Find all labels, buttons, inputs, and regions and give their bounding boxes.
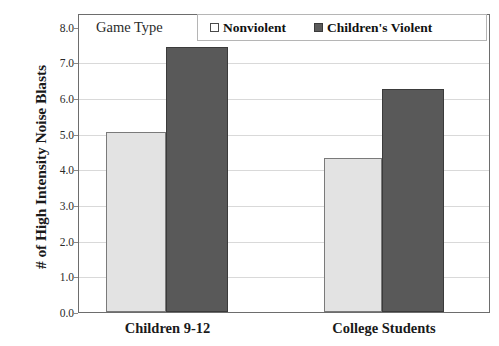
legend-label-nonviolent: Nonviolent [223,20,286,36]
bar-college-nonviolent [324,158,382,312]
bar-children-nonviolent [106,132,166,312]
y-axis-tick-labels: 8.0 7.0 6.0 5.0 4.0 3.0 2.0 1.0 0.0 [28,0,74,346]
y-tick-label-5: 5.0 [34,129,74,141]
y-tick-label-1: 1.0 [34,271,74,283]
gridline-7 [79,63,489,64]
bar-chart-figure: # of High Intensity Noise Blasts 8.0 7.0… [0,0,499,346]
bar-college-violent [382,89,444,312]
x-category-label-college: College Students [320,320,448,337]
y-tick-label-6: 6.0 [34,93,74,105]
y-tick-label-2: 2.0 [34,236,74,248]
y-tick-mark-0 [73,313,78,314]
x-category-label-children: Children 9-12 [105,320,230,337]
y-tick-label-8: 8.0 [34,22,74,34]
y-tick-label-0: 0.0 [34,307,74,319]
legend-entry-nonviolent: Nonviolent [210,20,286,36]
dark-square-icon [314,23,323,32]
x-axis-line [78,312,490,313]
plot-area [78,14,490,313]
y-tick-label-4: 4.0 [34,164,74,176]
y-tick-label-7: 7.0 [34,57,74,69]
y-tick-label-3: 3.0 [34,200,74,212]
legend-entry-violent: Children's Violent [314,20,432,36]
legend-title: Game Type [96,19,163,36]
bar-children-violent [166,47,228,312]
legend-label-violent: Children's Violent [327,20,432,36]
light-square-icon [210,23,219,32]
legend-box: Nonviolent Children's Violent [197,14,487,41]
y-axis-line [78,14,79,313]
